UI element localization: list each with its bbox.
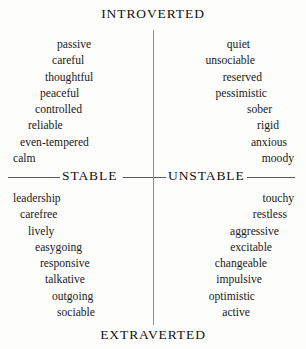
trait-word: anxious — [157, 135, 303, 151]
trait-word: sober — [157, 102, 303, 118]
trait-word: leadership — [4, 191, 150, 207]
horizontal-axis-line-left — [8, 177, 60, 178]
trait-word: careful — [4, 53, 150, 69]
trait-word: easygoing — [4, 240, 150, 256]
axis-label-unstable: UNSTABLE — [166, 168, 247, 184]
axis-label-stable: STABLE — [60, 168, 119, 184]
trait-word: responsive — [4, 256, 150, 272]
trait-word: peaceful — [4, 86, 150, 102]
horizontal-axis-line-mid-left — [123, 177, 153, 178]
trait-word: optimistic — [157, 289, 303, 305]
trait-word: lively — [4, 224, 150, 240]
trait-word: calm — [4, 151, 150, 167]
trait-word: impulsive — [157, 272, 303, 288]
trait-word: controlled — [4, 102, 150, 118]
quadrant-upper-right: quietunsociablereservedpessimisticsoberr… — [157, 37, 303, 167]
quadrant-lower-right: touchyrestlessaggressiveexcitablechangea… — [157, 191, 303, 321]
quadrant-upper-left: passivecarefulthoughtfulpeacefulcontroll… — [4, 37, 150, 167]
trait-word: even-tempered — [4, 135, 150, 151]
trait-word: moody — [157, 151, 303, 167]
trait-word: thoughtful — [4, 70, 150, 86]
trait-word: carefree — [4, 207, 150, 223]
trait-word: reserved — [157, 70, 303, 86]
trait-word: rigid — [157, 118, 303, 134]
horizontal-axis-line-right — [246, 177, 295, 178]
trait-word: pessimistic — [157, 86, 303, 102]
axis-label-extraverted: EXTRAVERTED — [0, 327, 306, 343]
trait-word: reliable — [4, 118, 150, 134]
trait-word: passive — [4, 37, 150, 53]
trait-word: changeable — [157, 256, 303, 272]
trait-word: outgoing — [4, 289, 150, 305]
trait-word: active — [157, 305, 303, 321]
trait-word: unsociable — [157, 53, 303, 69]
quadrant-lower-left: leadershipcarefreelivelyeasygoingrespons… — [4, 191, 150, 321]
personality-circumplex-diagram: INTROVERTED EXTRAVERTED STABLE UNSTABLE … — [0, 0, 306, 349]
trait-word: quiet — [157, 37, 303, 53]
trait-word: aggressive — [157, 224, 303, 240]
trait-word: excitable — [157, 240, 303, 256]
trait-word: touchy — [157, 191, 303, 207]
horizontal-axis-line-mid-right — [154, 177, 166, 178]
axis-label-introverted: INTROVERTED — [0, 6, 306, 22]
trait-word: sociable — [4, 305, 150, 321]
trait-word: talkative — [4, 272, 150, 288]
trait-word: restless — [157, 207, 303, 223]
